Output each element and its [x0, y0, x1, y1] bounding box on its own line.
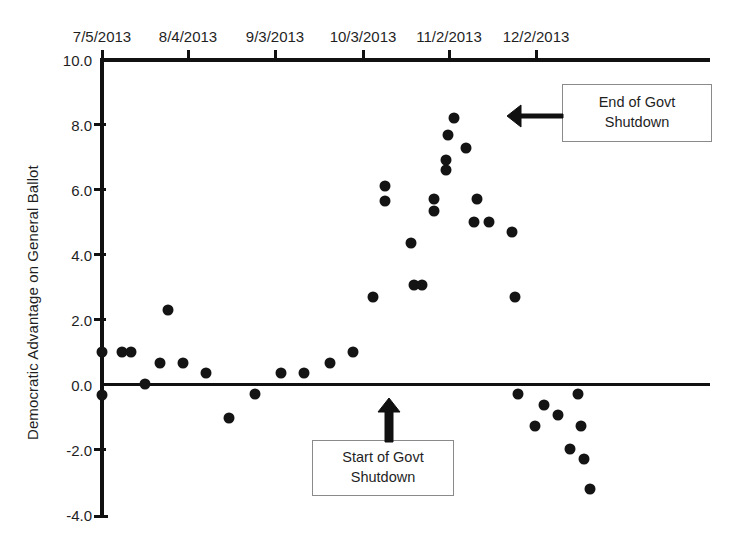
data-point: [348, 346, 359, 357]
x-axis-line: [102, 58, 710, 62]
data-point: [460, 142, 471, 153]
data-point: [140, 379, 151, 390]
x-tick-label-6: 12/2/2013: [503, 28, 570, 45]
annotation-box-start-shutdown: Start of Govt Shutdown: [312, 440, 454, 496]
data-point: [449, 113, 460, 124]
y-tick-mark-2: [94, 318, 106, 321]
annotation-start-line2: Shutdown: [351, 468, 416, 488]
x-tick-mark-5: [448, 50, 451, 62]
annotation-end-line2: Shutdown: [605, 113, 670, 133]
y-tick-label-0: 0.0: [40, 377, 92, 394]
data-point: [564, 443, 575, 454]
data-point: [429, 194, 440, 205]
x-tick-label-5: 11/2/2013: [416, 28, 482, 45]
x-tick-mark-6: [535, 50, 538, 62]
y-axis-title: Democratic Advantage on General Ballot: [24, 165, 41, 440]
data-point: [417, 280, 428, 291]
data-point: [163, 304, 174, 315]
annotation-box-end-shutdown: End of Govt Shutdown: [562, 84, 712, 142]
arrow-left-icon: [505, 100, 565, 132]
x-tick-label-3: 9/3/2013: [246, 28, 304, 45]
annotation-start-line1: Start of Govt: [342, 448, 423, 468]
data-point: [443, 129, 454, 140]
data-point: [97, 390, 108, 401]
y-tick-label-8: 8.0: [40, 117, 92, 134]
data-point: [97, 346, 108, 357]
data-point: [512, 388, 523, 399]
annotation-end-line1: End of Govt: [599, 93, 676, 113]
zero-reference-line: [102, 383, 710, 386]
data-point: [472, 194, 483, 205]
x-tick-mark-4: [362, 50, 365, 62]
x-tick-label-2: 8/4/2013: [159, 28, 217, 45]
data-point: [154, 357, 165, 368]
data-point: [379, 181, 390, 192]
data-point: [440, 165, 451, 176]
arrow-up-icon: [374, 396, 404, 444]
x-tick-label-4: 10/3/2013: [330, 28, 397, 45]
data-point: [538, 400, 549, 411]
data-point: [440, 155, 451, 166]
data-point: [576, 421, 587, 432]
y-tick-mark-neg2: [94, 448, 106, 451]
data-point: [177, 357, 188, 368]
data-point: [579, 453, 590, 464]
y-tick-mark-6: [94, 188, 106, 191]
y-tick-label-10: 10.0: [40, 52, 92, 69]
data-point: [299, 367, 310, 378]
y-tick-label-neg2: -2.0: [40, 442, 92, 459]
data-point: [276, 367, 287, 378]
data-point: [584, 484, 595, 495]
y-tick-label-2: 2.0: [40, 312, 92, 329]
x-tick-label-1: 7/5/2013: [73, 28, 131, 45]
data-point: [483, 217, 494, 228]
data-point: [200, 367, 211, 378]
y-tick-mark-8: [94, 123, 106, 126]
data-point: [506, 226, 517, 237]
y-tick-label-4: 4.0: [40, 247, 92, 264]
data-point: [368, 291, 379, 302]
data-point: [325, 357, 336, 368]
x-tick-mark-3: [274, 50, 277, 62]
data-point: [573, 388, 584, 399]
scatter-chart: 7/5/2013 8/4/2013 9/3/2013 10/3/2013 11/…: [0, 0, 738, 546]
x-tick-mark-2: [187, 50, 190, 62]
data-point: [553, 409, 564, 420]
y-tick-label-6: 6.0: [40, 182, 92, 199]
data-point: [250, 388, 261, 399]
data-point: [405, 238, 416, 249]
x-tick-mark-1: [101, 50, 104, 68]
y-tick-mark-neg4: [94, 515, 108, 518]
data-point: [509, 291, 520, 302]
y-tick-label-neg4: -4.0: [40, 507, 92, 524]
data-point: [379, 195, 390, 206]
data-point: [224, 413, 235, 424]
y-tick-mark-4: [94, 253, 106, 256]
data-point: [530, 421, 541, 432]
data-point: [429, 205, 440, 216]
data-point: [469, 217, 480, 228]
data-point: [125, 346, 136, 357]
